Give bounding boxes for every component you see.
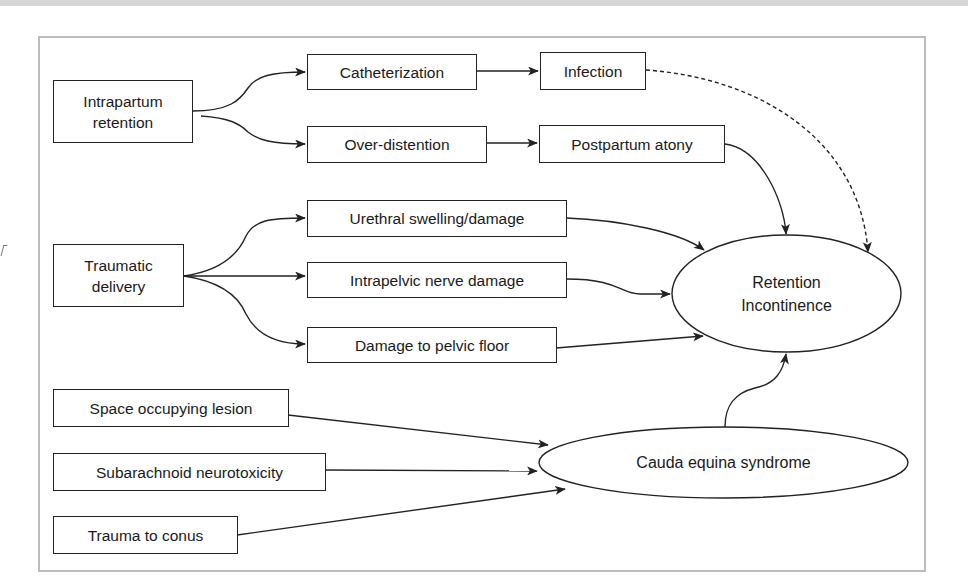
- node-label: Incontinence: [741, 294, 832, 317]
- node-label: Postpartum atony: [571, 134, 692, 155]
- node-pelvic-floor-damage: Damage to pelvic floor: [307, 327, 557, 363]
- node-label: Trauma to conus: [88, 525, 204, 546]
- node-label: Space occupying lesion: [90, 398, 253, 419]
- node-urethral-swelling: Urethral swelling/damage: [307, 200, 567, 237]
- edge-intrapartum-overdistention: [201, 116, 305, 144]
- edge-intrapelvic-retention: [566, 279, 670, 294]
- node-traumatic-delivery: Traumatic delivery: [53, 244, 184, 307]
- node-label: delivery: [92, 276, 145, 297]
- node-retention-incontinence: Retention Incontinence: [672, 235, 901, 352]
- node-label: Intrapelvic nerve damage: [350, 270, 524, 291]
- node-label: Damage to pelvic floor: [355, 335, 509, 356]
- node-label: Retention: [752, 271, 821, 294]
- node-infection: Infection: [540, 52, 646, 90]
- edge-trauma-cauda: [237, 489, 565, 535]
- node-intrapartum-retention: Intrapartum retention: [53, 80, 193, 143]
- edge-space-cauda: [288, 415, 548, 445]
- edge-postpartum-retention: [725, 144, 786, 234]
- edge-subarachnoid-cauda: [325, 470, 537, 471]
- node-label: Cauda equina syndrome: [636, 451, 810, 474]
- edge-traumatic-urethral: [184, 218, 305, 276]
- node-postpartum-atony: Postpartum atony: [539, 125, 725, 163]
- node-space-occupying-lesion: Space occupying lesion: [53, 389, 289, 427]
- node-cauda-equina-syndrome: Cauda equina syndrome: [539, 427, 908, 498]
- edge-cauda-retention: [725, 354, 786, 427]
- node-label: Urethral swelling/damage: [350, 208, 525, 229]
- node-label: Subarachnoid neurotoxicity: [96, 462, 283, 483]
- node-label: Over-distention: [344, 134, 449, 155]
- node-label: Catheterization: [340, 62, 444, 83]
- edge-intrapartum-catheterization: [192, 72, 305, 111]
- node-over-distention: Over-distention: [307, 126, 487, 163]
- node-subarachnoid-neurotoxicity: Subarachnoid neurotoxicity: [53, 453, 326, 491]
- node-catheterization: Catheterization: [307, 54, 477, 90]
- node-label: Traumatic: [84, 255, 152, 276]
- edge-traumatic-pelvicfloor: [184, 276, 305, 344]
- node-label: retention: [93, 112, 153, 133]
- node-label: Infection: [564, 61, 623, 82]
- node-intrapelvic-nerve-damage: Intrapelvic nerve damage: [307, 262, 567, 298]
- node-trauma-to-conus: Trauma to conus: [53, 516, 238, 554]
- node-label: Intrapartum: [83, 91, 162, 112]
